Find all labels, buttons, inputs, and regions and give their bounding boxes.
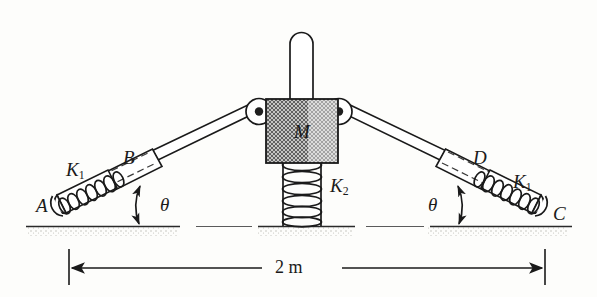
point-label-b: B [123, 148, 135, 167]
point-label-a: A [36, 196, 48, 215]
k2-symbol: K [330, 175, 343, 196]
k1-right-symbol: K [513, 171, 526, 192]
angle-label-right: θ [428, 195, 437, 214]
k1-right-subscript: 1 [526, 181, 532, 194]
mechanism-figure: M A B C D K1 K1 K2 θ θ 2 m [0, 0, 597, 297]
k1-left-subscript: 1 [79, 169, 85, 182]
ground-line [26, 227, 572, 237]
right-link-rod [342, 104, 446, 161]
spring-label-k1-left: K1 [66, 160, 85, 179]
mass-label: M [294, 122, 310, 141]
point-label-c: C [553, 204, 566, 223]
angle-arrow-left [136, 186, 140, 224]
dimension-line [69, 249, 545, 285]
k1-left-symbol: K [66, 159, 79, 180]
spring-label-k2: K2 [330, 176, 349, 195]
angle-arrow-right [458, 186, 462, 224]
angle-label-left: θ [160, 195, 169, 214]
guide-rod [290, 33, 313, 101]
k2-subscript: 2 [343, 185, 349, 198]
left-link-rod [153, 104, 257, 161]
point-label-d: D [473, 148, 487, 167]
dimension-label: 2 m [275, 258, 303, 276]
spring-label-k1-right: K1 [513, 172, 532, 191]
diagram-canvas [0, 0, 597, 297]
